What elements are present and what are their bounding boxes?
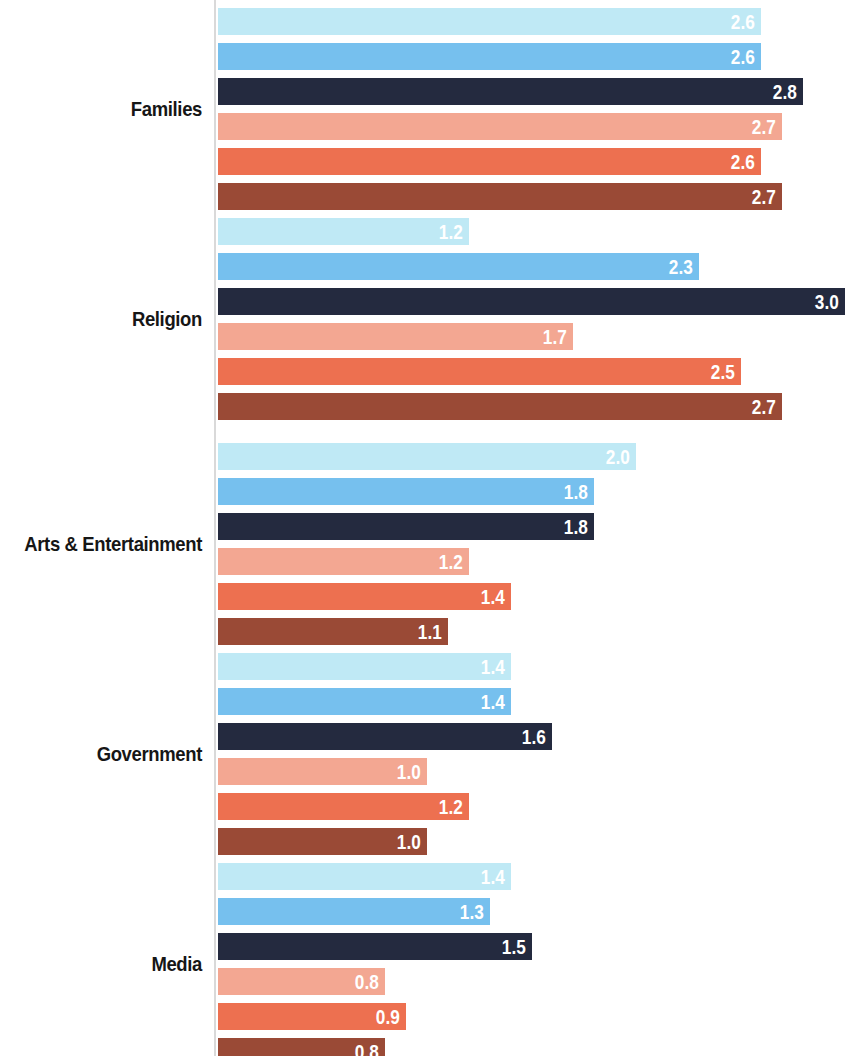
bar[interactable]: 2.8 xyxy=(218,78,803,105)
bar[interactable]: 2.5 xyxy=(218,358,741,385)
bar[interactable]: 2.3 xyxy=(218,253,699,280)
bar[interactable]: 1.6 xyxy=(218,723,552,750)
bar-group: Government1.41.41.61.01.21.0 xyxy=(0,653,854,855)
bar-value-label: 1.4 xyxy=(481,587,511,607)
bar-value-label: 3.0 xyxy=(815,292,845,312)
bar-value-label: 0.8 xyxy=(355,1042,385,1056)
bar[interactable]: 1.0 xyxy=(218,758,427,785)
bar[interactable]: 1.2 xyxy=(218,218,469,245)
category-label: Families xyxy=(24,98,202,120)
category-label: Government xyxy=(24,743,202,765)
bar-value-label: 1.4 xyxy=(481,867,511,887)
bar[interactable]: 1.8 xyxy=(218,478,594,505)
bar-value-label: 2.6 xyxy=(731,47,761,67)
bar-group: Families2.62.62.82.72.62.7 xyxy=(0,8,854,210)
bar[interactable]: 3.0 xyxy=(218,288,845,315)
bar[interactable]: 2.6 xyxy=(218,8,761,35)
bar-value-label: 1.2 xyxy=(439,797,469,817)
bar-value-label: 2.5 xyxy=(711,362,741,382)
bar[interactable]: 1.7 xyxy=(218,323,573,350)
bar[interactable]: 1.5 xyxy=(218,933,532,960)
bar[interactable]: 0.8 xyxy=(218,1038,385,1056)
bar[interactable]: 1.4 xyxy=(218,583,511,610)
bar[interactable]: 1.4 xyxy=(218,653,511,680)
bar-value-label: 1.0 xyxy=(397,762,427,782)
bar[interactable]: 2.7 xyxy=(218,393,782,420)
bar-value-label: 2.6 xyxy=(731,152,761,172)
category-label: Religion xyxy=(24,308,202,330)
bar-value-label: 2.7 xyxy=(752,117,782,137)
bar-value-label: 0.9 xyxy=(376,1007,406,1027)
bar-group: Media1.41.31.50.80.90.8 xyxy=(0,863,854,1056)
bar[interactable]: 2.6 xyxy=(218,43,761,70)
bar-value-label: 2.6 xyxy=(731,12,761,32)
bar[interactable]: 1.1 xyxy=(218,618,448,645)
bar-value-label: 2.3 xyxy=(669,257,699,277)
bar-value-label: 1.6 xyxy=(522,727,552,747)
bar[interactable]: 1.3 xyxy=(218,898,490,925)
bar-value-label: 1.8 xyxy=(564,482,594,502)
bar-value-label: 2.7 xyxy=(752,187,782,207)
category-label: Media xyxy=(24,953,202,975)
bar-value-label: 1.4 xyxy=(481,692,511,712)
bar-value-label: 2.0 xyxy=(606,447,636,467)
bar-value-label: 0.8 xyxy=(355,972,385,992)
bar[interactable]: 1.2 xyxy=(218,793,469,820)
bar-value-label: 1.2 xyxy=(439,222,469,242)
bar-value-label: 1.3 xyxy=(460,902,490,922)
bar-value-label: 1.0 xyxy=(397,832,427,852)
bar[interactable]: 2.7 xyxy=(218,183,782,210)
grouped-bar-chart: Families2.62.62.82.72.62.7Religion1.22.3… xyxy=(0,0,854,1056)
bar-value-label: 2.8 xyxy=(773,82,803,102)
bar-value-label: 1.5 xyxy=(502,937,532,957)
bar[interactable]: 1.4 xyxy=(218,863,511,890)
bar[interactable]: 0.9 xyxy=(218,1003,406,1030)
bar[interactable]: 2.7 xyxy=(218,113,782,140)
bar[interactable]: 1.4 xyxy=(218,688,511,715)
bar[interactable]: 2.6 xyxy=(218,148,761,175)
bar[interactable]: 1.0 xyxy=(218,828,427,855)
bar-value-label: 2.7 xyxy=(752,397,782,417)
bar-value-label: 1.8 xyxy=(564,517,594,537)
bar-value-label: 1.2 xyxy=(439,552,469,572)
bar-value-label: 1.4 xyxy=(481,657,511,677)
category-label: Arts & Entertainment xyxy=(24,533,202,555)
bar[interactable]: 0.8 xyxy=(218,968,385,995)
bar[interactable]: 2.0 xyxy=(218,443,636,470)
bar[interactable]: 1.2 xyxy=(218,548,469,575)
bar-group: Religion1.22.33.01.72.52.7 xyxy=(0,218,854,420)
bar-value-label: 1.1 xyxy=(418,622,448,642)
bar[interactable]: 1.8 xyxy=(218,513,594,540)
bar-value-label: 1.7 xyxy=(543,327,573,347)
bar-group: Arts & Entertainment2.01.81.81.21.41.1 xyxy=(0,443,854,645)
